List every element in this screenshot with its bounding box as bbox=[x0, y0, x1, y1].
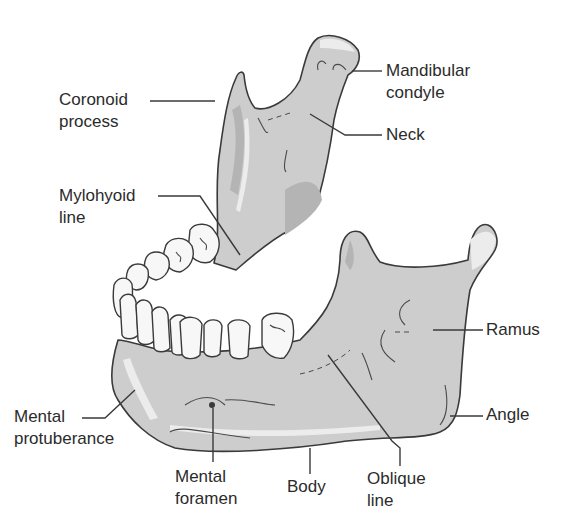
label-neck: Neck bbox=[386, 124, 425, 146]
mental-foramen-hole bbox=[209, 402, 215, 408]
label-mental-protuberance: Mental protuberance bbox=[14, 406, 114, 450]
label-mental-foramen: Mental foramen bbox=[175, 466, 237, 510]
label-mylohyoid-line: Mylohyoid line bbox=[59, 185, 136, 229]
mandible-diagram: Coronoid process Mandibular condyle Neck… bbox=[0, 0, 567, 525]
label-mandibular-condyle: Mandibular condyle bbox=[386, 60, 470, 104]
label-body: Body bbox=[287, 476, 326, 498]
label-coronoid-process: Coronoid process bbox=[59, 89, 128, 133]
label-oblique-line: Oblique line bbox=[367, 468, 426, 512]
label-ramus: Ramus bbox=[486, 319, 540, 341]
far-ramus bbox=[214, 36, 359, 270]
label-angle: Angle bbox=[486, 404, 529, 426]
